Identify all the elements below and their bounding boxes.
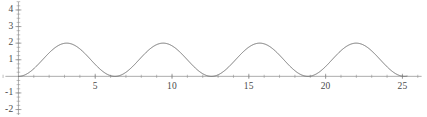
plot-canvas (0, 0, 427, 117)
x-tick-label: 25 (397, 82, 407, 92)
y-tick-label: 1 (8, 55, 13, 65)
x-tick-label: 10 (167, 82, 177, 92)
axes-group (5, 2, 421, 115)
y-tick-label: 2 (8, 38, 13, 48)
x-tick-label: 5 (93, 82, 98, 92)
y-tick-label: 4 (8, 5, 13, 15)
x-tick-label: 15 (244, 82, 254, 92)
x-tick-label: 20 (321, 82, 331, 92)
y-tick-label: 3 (8, 22, 13, 32)
data-curve (18, 43, 407, 76)
y-tick-label: -1 (5, 88, 13, 98)
plot-figure: 510152025 4321-1-2 (0, 0, 427, 117)
y-tick-label: -2 (5, 105, 13, 115)
